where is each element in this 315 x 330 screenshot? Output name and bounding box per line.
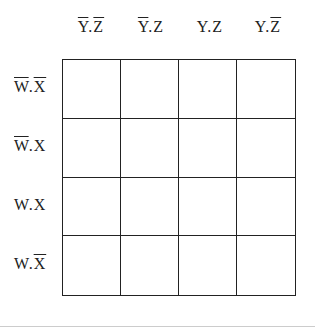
var-z: Z [93, 18, 104, 35]
col-label-2: Y.Z [180, 18, 240, 36]
row-label-1: W.X [14, 137, 58, 155]
col-label-1: Y.Z [121, 18, 181, 36]
kmap-cell-0-1 [121, 60, 179, 119]
kmap-cell-3-2 [179, 236, 237, 295]
var-z: Z [212, 18, 223, 35]
kmap-cell-2-0 [63, 178, 121, 237]
kmap-cell-1-1 [121, 119, 179, 178]
kmap-cell-2-2 [179, 178, 237, 237]
col-label-3: Y.Z [238, 18, 298, 36]
var-w: W [14, 78, 29, 95]
var-x: X [34, 78, 47, 95]
kmap-cell-0-3 [237, 60, 295, 119]
var-z: Z [153, 18, 164, 35]
page-edge-line [0, 326, 315, 327]
col-label-0: Y.Z [61, 18, 121, 36]
kmap-cell-3-3 [237, 236, 295, 295]
row-label-2: W.X [14, 196, 58, 214]
var-w: W [14, 255, 29, 272]
kmap-cell-1-2 [179, 119, 237, 178]
row-label-0: W.X [14, 78, 58, 96]
var-w: W [14, 137, 29, 154]
kmap-cell-3-0 [63, 236, 121, 295]
karnaugh-map-grid [62, 59, 296, 296]
var-z: Z [270, 18, 281, 35]
row-label-3: W.X [14, 255, 58, 273]
var-y: Y [78, 18, 89, 35]
kmap-cell-1-3 [237, 119, 295, 178]
kmap-cell-0-2 [179, 60, 237, 119]
var-x: X [34, 196, 47, 213]
kmap-cell-1-0 [63, 119, 121, 178]
var-x: X [34, 255, 47, 272]
kmap-cell-2-1 [121, 178, 179, 237]
var-w: W [14, 196, 29, 213]
var-y: Y [138, 18, 149, 35]
kmap-cell-3-1 [121, 236, 179, 295]
var-x: X [34, 137, 47, 154]
var-y: Y [197, 18, 208, 35]
kmap-cell-2-3 [237, 178, 295, 237]
var-y: Y [255, 18, 266, 35]
kmap-cell-0-0 [63, 60, 121, 119]
